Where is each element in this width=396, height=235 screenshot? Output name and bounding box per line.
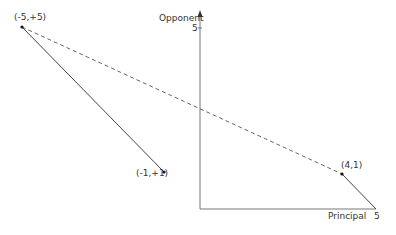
y-axis-label: Opponent (159, 13, 204, 23)
x-axis-tick-label: 5 (374, 211, 380, 221)
segment-neg5pos5-to-neg1pos1 (22, 27, 164, 172)
point-label-neg1-pos1: (-1,+1) (136, 168, 168, 178)
x-axis-label: Principal (328, 211, 366, 221)
point-label-neg5-pos5: (-5,+5) (14, 12, 46, 22)
point-label-4-1: (4,1) (341, 160, 362, 170)
point-4-1 (340, 172, 343, 175)
diagram-canvas: (-5,+5) (-1,+1) (4,1) Opponent 5 Princip… (0, 0, 396, 235)
y-axis-tick-label: 5 (192, 23, 198, 33)
segment-4-1-to-5-0 (342, 174, 376, 209)
dashed-segment-neg5pos5-to-4-1 (22, 27, 342, 174)
point-neg5-pos5 (20, 25, 23, 28)
